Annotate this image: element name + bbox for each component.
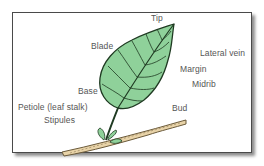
twig <box>62 120 186 156</box>
leaf-illustration <box>0 0 264 166</box>
label-midrib: Midrib <box>192 79 216 89</box>
label-blade: Blade <box>91 41 113 51</box>
label-petiole: Petiole (leaf stalk) <box>18 102 88 112</box>
label-lateral-vein: Lateral vein <box>200 48 245 58</box>
label-tip: Tip <box>151 13 163 23</box>
label-bud: Bud <box>172 103 187 113</box>
label-stipules: Stipules <box>44 115 75 125</box>
label-base: Base <box>78 86 98 96</box>
leaf-blade <box>100 24 174 109</box>
label-margin: Margin <box>180 64 207 74</box>
